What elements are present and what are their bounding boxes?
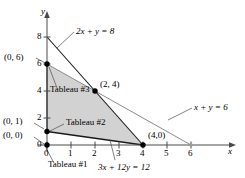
x-tick-0: 0 <box>44 149 49 158</box>
tableau-label-2: Tableau #2 <box>66 118 106 127</box>
tableau-label-1: Tableau #1 <box>48 160 88 169</box>
equation-label-2x-plus-y-8: 2x + y = 8 <box>76 27 114 36</box>
point-label-0-6: (0, 6) <box>4 53 24 62</box>
vertex-dot-6-0 <box>189 143 193 147</box>
x-tick-5: 5 <box>164 149 169 158</box>
y-tick-8: 8 <box>37 32 42 41</box>
x-tick-1: 1 <box>68 149 73 158</box>
equation-label-3x-plus-12y-12: 3x + 12y = 12 <box>98 163 150 172</box>
x-tick-6: 6 <box>188 149 193 158</box>
point-label-2-4: (2, 4) <box>100 80 120 89</box>
tableau-label-3: Tableau #3 <box>50 85 90 94</box>
vertex-dot-0-1 <box>44 129 49 134</box>
x-tick-4: 4 <box>140 149 145 158</box>
vertex-dot-0-0 <box>44 142 49 147</box>
equation-label-x-plus-y-6: x + y = 6 <box>194 103 228 112</box>
y-tick-0: 0 <box>37 140 42 149</box>
x-tick-2: 2 <box>92 149 97 158</box>
vertex-dot-4-0 <box>140 142 145 147</box>
y-tick-4: 4 <box>37 86 42 95</box>
vertex-dot-2-4 <box>92 88 97 93</box>
point-label-0-1: (0, 1) <box>3 117 23 126</box>
leader-line-eq-x-y-6 <box>168 108 192 120</box>
linear-programming-figure: y x 0 1 2 3 4 5 6 0 2 4 6 8 2x + y = 8 x… <box>0 0 245 178</box>
leader-line-eq-2x-y-8 <box>57 32 74 48</box>
y-axis-arrow <box>44 11 50 18</box>
y-axis-label: y <box>41 7 45 16</box>
y-tick-2: 2 <box>37 113 42 122</box>
vertex-dot-0-6 <box>44 61 49 66</box>
leader-line-0-1 <box>34 123 44 129</box>
point-label-0-0: (0, 0) <box>3 131 23 140</box>
leader-line-eq-3x-12y-12 <box>110 140 115 160</box>
x-tick-3: 3 <box>116 149 121 158</box>
x-axis-label: x <box>228 147 232 156</box>
y-tick-6: 6 <box>37 59 42 68</box>
point-label-4-0: (4,0) <box>148 131 165 140</box>
